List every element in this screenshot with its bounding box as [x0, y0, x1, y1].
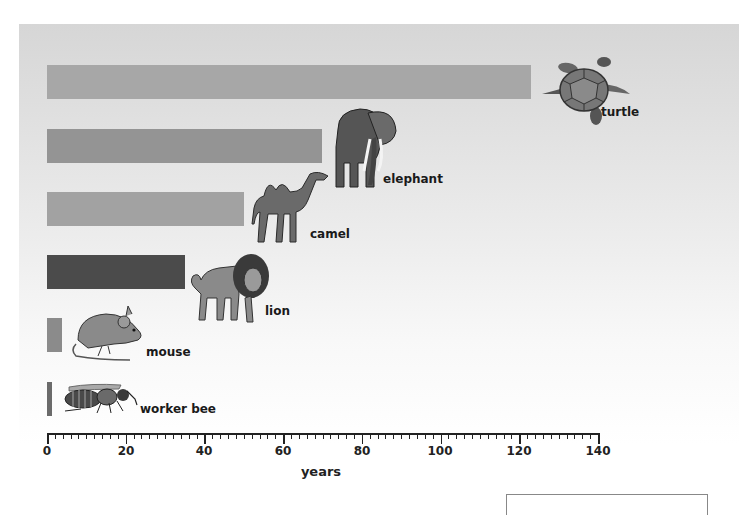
minor-tick	[71, 433, 72, 439]
minor-tick	[173, 433, 174, 439]
major-tick	[126, 433, 128, 444]
bar-label-camel: camel	[310, 227, 350, 241]
bee-icon	[61, 381, 139, 415]
minor-tick	[472, 433, 473, 439]
minor-tick	[244, 433, 245, 439]
minor-tick	[291, 433, 292, 439]
major-tick	[441, 433, 443, 444]
minor-tick	[582, 433, 583, 439]
bar-worker-bee	[47, 382, 52, 416]
minor-tick	[456, 433, 457, 439]
minor-tick	[417, 433, 418, 439]
tick-label-120: 120	[506, 444, 531, 458]
minor-tick	[401, 433, 402, 439]
tick-label-60: 60	[275, 444, 292, 458]
minor-tick	[228, 433, 229, 439]
minor-tick	[433, 433, 434, 439]
minor-tick	[307, 433, 308, 439]
minor-tick	[480, 433, 481, 439]
minor-tick	[511, 433, 512, 439]
bar-mouse	[47, 318, 62, 352]
minor-tick	[189, 433, 190, 439]
minor-tick	[346, 433, 347, 439]
minor-tick	[260, 433, 261, 439]
bar-camel	[47, 192, 244, 226]
minor-tick	[165, 433, 166, 439]
minor-tick	[464, 433, 465, 439]
minor-tick	[299, 433, 300, 439]
minor-tick	[94, 433, 95, 439]
minor-tick	[551, 433, 552, 439]
minor-tick	[370, 433, 371, 439]
bar-lion	[47, 255, 185, 289]
minor-tick	[181, 433, 182, 439]
minor-tick	[425, 433, 426, 439]
minor-tick	[488, 433, 489, 439]
minor-tick	[385, 433, 386, 439]
minor-tick	[275, 433, 276, 439]
minor-tick	[78, 433, 79, 439]
x-axis-title: years	[301, 464, 341, 479]
minor-tick	[55, 433, 56, 439]
tick-label-20: 20	[118, 444, 135, 458]
minor-tick	[86, 433, 87, 439]
minor-tick	[252, 433, 253, 439]
bar-label-turtle: turtle	[601, 105, 639, 119]
bar-label-worker-bee: worker bee	[140, 402, 216, 416]
bar-label-mouse: mouse	[146, 345, 191, 359]
major-tick	[519, 433, 521, 444]
minor-tick	[590, 433, 591, 439]
minor-tick	[448, 433, 449, 439]
major-tick	[283, 433, 285, 444]
minor-tick	[110, 433, 111, 439]
minor-tick	[330, 433, 331, 439]
minor-tick	[315, 433, 316, 439]
tick-label-100: 100	[427, 444, 452, 458]
minor-tick	[197, 433, 198, 439]
minor-tick	[236, 433, 237, 439]
caption-box	[506, 494, 708, 515]
minor-tick	[134, 433, 135, 439]
minor-tick	[267, 433, 268, 439]
bar-label-elephant: elephant	[383, 172, 443, 186]
minor-tick	[567, 433, 568, 439]
minor-tick	[63, 433, 64, 439]
minor-tick	[354, 433, 355, 439]
minor-tick	[535, 433, 536, 439]
minor-tick	[220, 433, 221, 439]
minor-tick	[149, 433, 150, 439]
minor-tick	[378, 433, 379, 439]
minor-tick	[102, 433, 103, 439]
bar-turtle	[47, 65, 531, 99]
minor-tick	[338, 433, 339, 439]
minor-tick	[496, 433, 497, 439]
bar-elephant	[47, 129, 322, 163]
minor-tick	[559, 433, 560, 439]
major-tick	[47, 433, 49, 444]
bar-label-lion: lion	[265, 304, 290, 318]
major-tick	[362, 433, 364, 444]
major-tick	[204, 433, 206, 444]
tick-label-40: 40	[196, 444, 213, 458]
minor-tick	[323, 433, 324, 439]
major-tick	[598, 433, 600, 444]
minor-tick	[157, 433, 158, 439]
tick-label-0: 0	[43, 444, 51, 458]
minor-tick	[393, 433, 394, 439]
minor-tick	[118, 433, 119, 439]
minor-tick	[504, 433, 505, 439]
minor-tick	[527, 433, 528, 439]
minor-tick	[212, 433, 213, 439]
minor-tick	[574, 433, 575, 439]
tick-label-80: 80	[354, 444, 371, 458]
minor-tick	[409, 433, 410, 439]
minor-tick	[543, 433, 544, 439]
minor-tick	[141, 433, 142, 439]
lion-icon	[189, 248, 271, 326]
mouse-icon	[68, 304, 150, 362]
tick-label-140: 140	[585, 444, 610, 458]
